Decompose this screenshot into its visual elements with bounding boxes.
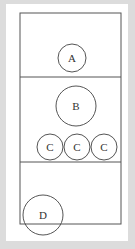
circle-c2-label: C [73, 141, 80, 153]
diagram-canvas: A B C C C D [0, 0, 135, 249]
circle-d: D [23, 195, 63, 235]
outer-box [20, 13, 121, 224]
circle-b: B [56, 86, 96, 126]
circle-d-label: D [39, 209, 47, 221]
circle-c1-label: C [46, 141, 53, 153]
circle-a: A [58, 44, 86, 72]
circle-c3-label: C [100, 141, 107, 153]
circle-c1: C [37, 134, 63, 160]
circle-c2: C [64, 134, 90, 160]
circle-b-label: B [72, 100, 79, 112]
circle-a-label: A [68, 52, 76, 64]
circle-c3: C [91, 134, 117, 160]
